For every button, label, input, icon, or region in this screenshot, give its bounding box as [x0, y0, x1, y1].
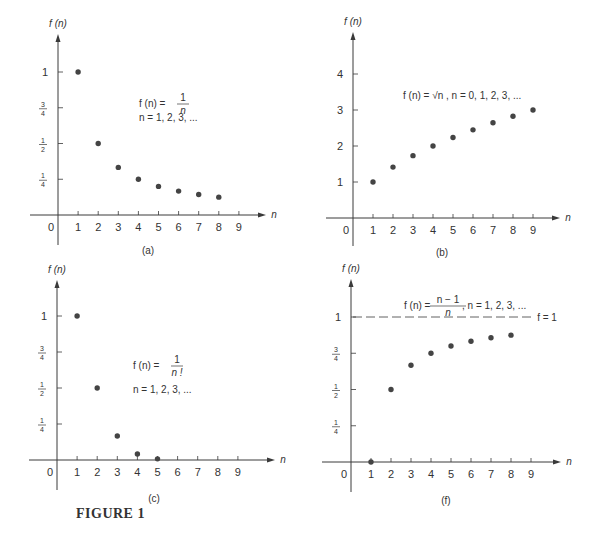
- data-point: [448, 343, 453, 348]
- x-tick-label: 4: [430, 224, 436, 236]
- y-tick-label: 34: [38, 345, 46, 361]
- fraction-numerator: 1: [334, 419, 338, 426]
- figure-canvas: nf (n)01234567891412341f (n) = 1nn = 1, …: [0, 0, 598, 538]
- data-point: [155, 456, 160, 461]
- fraction-numerator: 3: [40, 345, 44, 352]
- y-tick-label: 12: [39, 137, 47, 153]
- formula-lhs: f (n) =: [404, 300, 431, 311]
- x-tick-label: 4: [134, 466, 140, 478]
- asymptote-label: f = 1: [537, 312, 557, 323]
- data-point: [408, 363, 413, 368]
- data-point: [370, 179, 375, 184]
- y-axis-arrow-icon: [55, 280, 60, 288]
- x-tick-label: 3: [408, 468, 414, 480]
- data-point: [96, 141, 101, 146]
- x-tick-label: 6: [175, 466, 181, 478]
- y-tick-label: 3: [337, 104, 343, 116]
- data-point: [470, 127, 475, 132]
- x-tick-label: 2: [388, 468, 394, 480]
- formula-lhs: f (n) =: [133, 360, 160, 371]
- x-tick-label: 0: [341, 468, 347, 480]
- x-tick-label: 7: [488, 468, 494, 480]
- formula: f (n) = √n , n = 0, 1, 2, 3, ...: [403, 90, 521, 101]
- formula-numerator: 1: [174, 354, 180, 365]
- data-point: [95, 385, 100, 390]
- y-tick-label: 14: [39, 172, 47, 188]
- x-tick-label: 1: [75, 221, 81, 233]
- fraction-numerator: 1: [41, 172, 45, 179]
- y-axis-label: f (n): [342, 263, 360, 274]
- data-point: [510, 113, 515, 118]
- panel-label: (c): [148, 493, 160, 504]
- x-tick-label: 5: [448, 468, 454, 480]
- y-tick-label: 1: [335, 311, 341, 323]
- formula-numerator: n − 1: [437, 294, 460, 305]
- x-tick-label: 3: [115, 221, 121, 233]
- data-point: [450, 135, 455, 140]
- y-axis-arrow-icon: [56, 34, 61, 42]
- x-tick-label: 0: [343, 224, 349, 236]
- x-axis-label: n: [280, 454, 286, 465]
- figure-caption: FIGURE 1: [76, 506, 145, 522]
- x-tick-label: 5: [450, 224, 456, 236]
- data-point: [430, 143, 435, 148]
- chart-panel-a: nf (n)01234567891412341f (n) = 1nn = 1, …: [30, 18, 277, 256]
- x-tick-label: 9: [236, 221, 242, 233]
- y-tick-label: 14: [332, 419, 340, 435]
- data-point: [116, 165, 121, 170]
- formula-numerator: 1: [180, 92, 186, 103]
- formula-text: f (n) = √n , n = 0, 1, 2, 3, ...: [403, 90, 521, 101]
- data-point: [216, 194, 221, 199]
- data-point: [490, 120, 495, 125]
- x-tick-label: 2: [95, 221, 101, 233]
- y-tick-label: 2: [337, 140, 343, 152]
- data-point: [75, 69, 80, 74]
- x-tick-label: 1: [370, 224, 376, 236]
- x-tick-label: 3: [410, 224, 416, 236]
- x-tick-label: 8: [510, 224, 516, 236]
- x-tick-label: 8: [216, 221, 222, 233]
- fraction-denominator: 2: [41, 146, 45, 153]
- x-axis-arrow-icon: [258, 213, 266, 218]
- x-axis-label: n: [271, 209, 277, 220]
- y-axis-label: f (n): [49, 18, 67, 29]
- x-tick-label: 7: [195, 466, 201, 478]
- data-point: [488, 335, 493, 340]
- data-point: [428, 351, 433, 356]
- data-point: [135, 451, 140, 456]
- formula: f (n) = 1n !n = 1, 2, 3, ...: [133, 354, 192, 395]
- data-point: [136, 177, 141, 182]
- fraction-denominator: 4: [41, 110, 45, 117]
- x-tick-label: 0: [47, 466, 53, 478]
- x-tick-label: 4: [428, 468, 434, 480]
- data-point: [388, 387, 393, 392]
- x-tick-label: 7: [490, 224, 496, 236]
- fraction-numerator: 1: [40, 417, 44, 424]
- fraction-numerator: 1: [40, 381, 44, 388]
- formula-lhs: f (n) =: [139, 98, 166, 109]
- data-point: [74, 313, 79, 318]
- x-tick-label: 5: [155, 221, 161, 233]
- x-axis-label: n: [565, 212, 571, 223]
- y-tick-label: 12: [332, 383, 340, 399]
- data-point: [368, 459, 373, 464]
- data-point: [390, 164, 395, 169]
- y-tick-label: 14: [38, 417, 46, 433]
- data-point: [156, 184, 161, 189]
- x-tick-label: 5: [154, 466, 160, 478]
- fraction-denominator: 4: [334, 428, 338, 435]
- chart-panel-f: nf (n)01234567891412341f = 1f (n) = n − …: [322, 263, 572, 506]
- x-axis-label: n: [566, 456, 572, 467]
- fraction-numerator: 3: [334, 346, 338, 353]
- fraction-denominator: 4: [40, 354, 44, 361]
- fraction-denominator: 4: [41, 181, 45, 188]
- fraction-denominator: 4: [334, 355, 338, 362]
- y-tick-label: 34: [39, 101, 47, 117]
- y-axis-label: f (n): [48, 264, 66, 275]
- y-tick-label: 1: [41, 310, 47, 322]
- formula-domain: n = 1, 2, 3, ...: [139, 112, 198, 123]
- formula-tail: , n = 1, 2, 3, ...: [462, 300, 526, 311]
- data-point: [468, 339, 473, 344]
- x-tick-label: 7: [196, 221, 202, 233]
- formula-domain: n = 1, 2, 3, ...: [133, 384, 192, 395]
